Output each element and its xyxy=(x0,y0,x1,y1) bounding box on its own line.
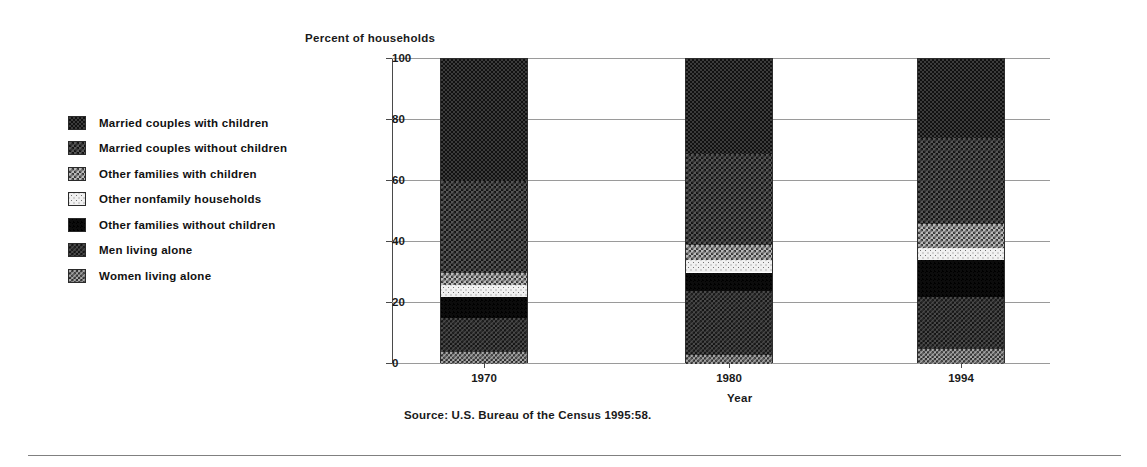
legend-swatch-icon xyxy=(68,116,86,130)
legend-item: Women living alone xyxy=(68,263,328,289)
x-tick-mark xyxy=(729,363,730,368)
bar-segment xyxy=(686,59,772,154)
bottom-divider xyxy=(28,455,1121,456)
legend-item: Men living alone xyxy=(68,238,328,264)
bar-segment xyxy=(918,138,1004,223)
bar-segment xyxy=(686,260,772,272)
bar-segment xyxy=(918,349,1004,364)
chart-title: Percent of households xyxy=(305,32,435,44)
bar-1994[interactable] xyxy=(917,58,1005,363)
bar-1980[interactable] xyxy=(685,58,773,363)
x-tick-label: 1994 xyxy=(948,372,974,384)
legend-swatch-icon xyxy=(68,167,86,181)
x-tick-mark xyxy=(961,363,962,368)
bar-segment xyxy=(686,273,772,291)
bar-segment xyxy=(441,318,527,352)
bar-segment xyxy=(918,59,1004,138)
plot-area: 020406080100 197019801994 Year xyxy=(392,58,1050,363)
bar-segment xyxy=(686,245,772,260)
bar-segment xyxy=(918,297,1004,349)
source-note: Source: U.S. Bureau of the Census 1995:5… xyxy=(404,409,651,421)
y-axis-line xyxy=(392,58,393,364)
bar-segment xyxy=(686,154,772,246)
bar-segment xyxy=(441,273,527,285)
bar-segment xyxy=(441,59,527,181)
legend-item: Other families without children xyxy=(68,212,328,238)
legend-item-label: Men living alone xyxy=(99,244,192,256)
bar-segment xyxy=(441,297,527,318)
legend-item-label: Married couples with children xyxy=(99,117,269,129)
bar-segment xyxy=(918,224,1004,248)
legend-item: Married couples without children xyxy=(68,136,328,162)
chart-legend: Married couples with childrenMarried cou… xyxy=(68,110,328,289)
bar-segment xyxy=(686,291,772,355)
legend-item: Other nonfamily households xyxy=(68,187,328,213)
legend-swatch-icon xyxy=(68,192,86,206)
legend-item-label: Other families with children xyxy=(99,168,257,180)
bar-segment xyxy=(918,248,1004,260)
legend-swatch-icon xyxy=(68,243,86,257)
bar-1970[interactable] xyxy=(440,58,528,363)
x-tick-mark xyxy=(484,363,485,368)
x-tick-label: 1980 xyxy=(716,372,742,384)
legend-item-label: Married couples without children xyxy=(99,142,287,154)
legend-swatch-icon xyxy=(68,141,86,155)
bar-segment xyxy=(918,260,1004,297)
bar-segment xyxy=(441,181,527,273)
x-tick-label: 1970 xyxy=(471,372,497,384)
legend-swatch-icon xyxy=(68,269,86,283)
legend-item-label: Other nonfamily households xyxy=(99,193,261,205)
legend-item-label: Women living alone xyxy=(99,270,211,282)
legend-swatch-icon xyxy=(68,218,86,232)
legend-item: Married couples with children xyxy=(68,110,328,136)
x-axis-title: Year xyxy=(727,392,753,404)
bar-segment xyxy=(441,285,527,297)
legend-item-label: Other families without children xyxy=(99,219,275,231)
legend-item: Other families with children xyxy=(68,161,328,187)
